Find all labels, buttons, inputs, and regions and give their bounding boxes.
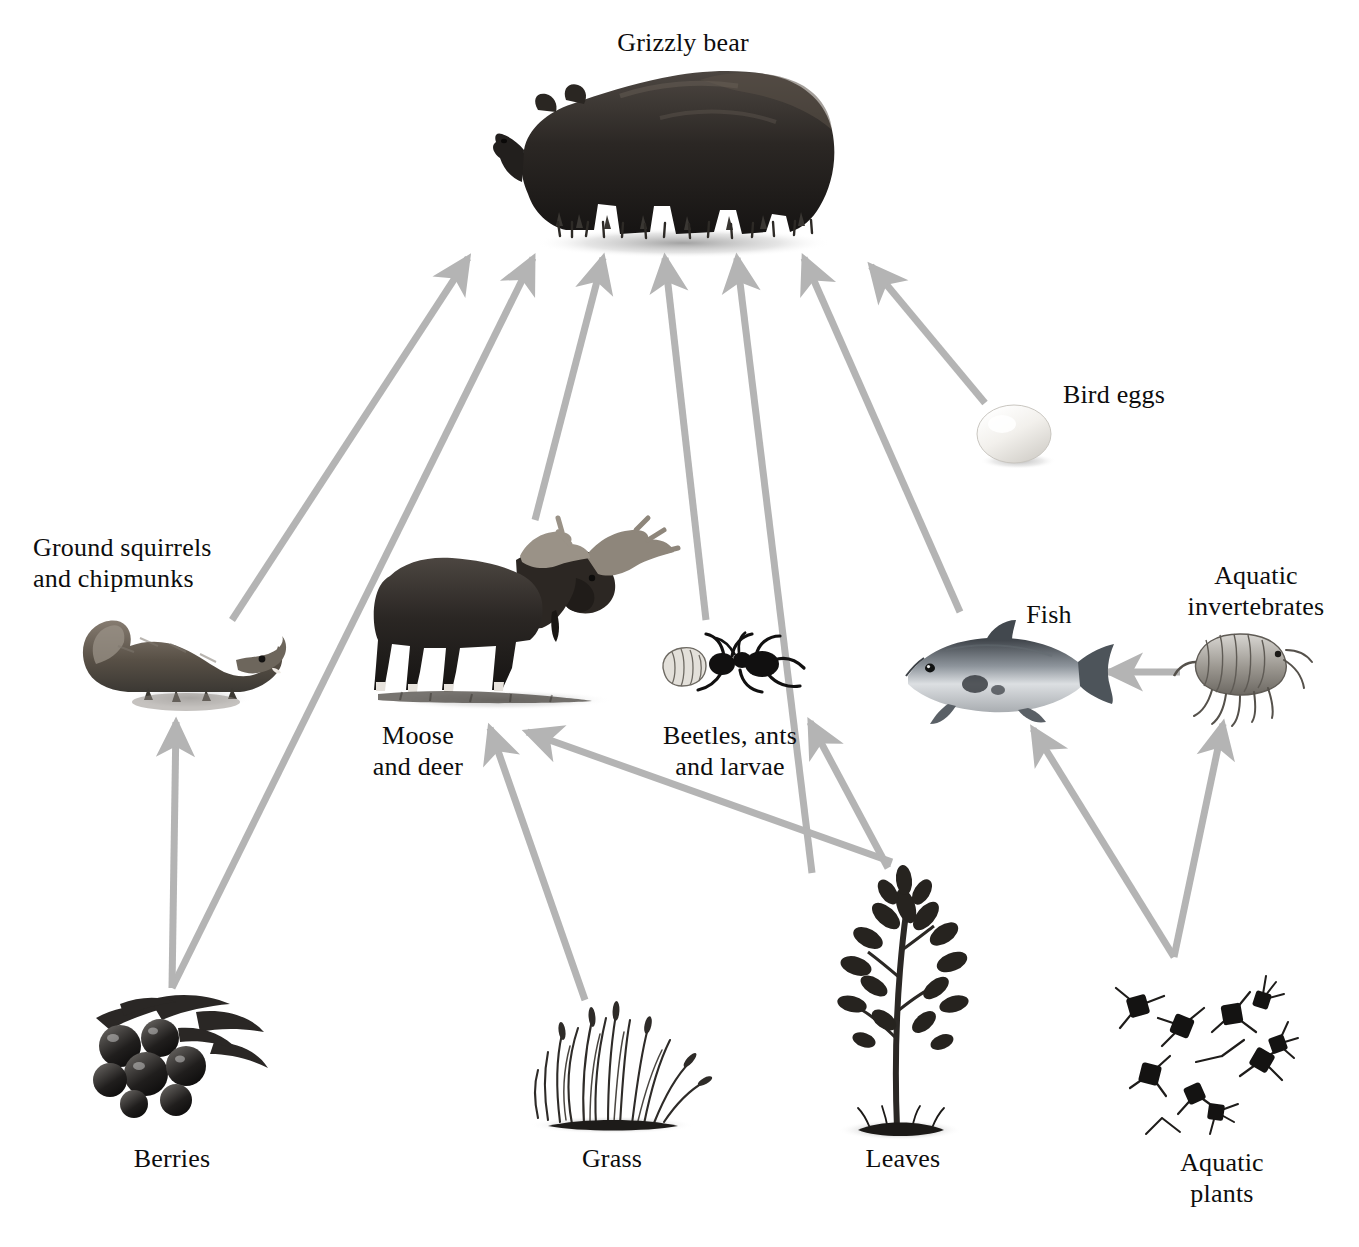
node-label-grizzly_bear: Grizzly bear [617, 28, 749, 59]
node-label-fish: Fish [1026, 600, 1072, 631]
grizzly-bear-illustration [493, 71, 834, 258]
node-label-berries: Berries [134, 1144, 210, 1175]
ground-squirrel-illustration [83, 620, 286, 711]
amphipod-illustration [1174, 634, 1312, 726]
aquatic-plant-diatoms-illustration [1116, 976, 1298, 1134]
food-web-diagram: Grizzly bearBird eggsGround squirrels an… [0, 0, 1359, 1247]
node-label-grass: Grass [582, 1144, 642, 1175]
beetle-ant-larva-illustration [663, 632, 804, 692]
node-label-ground_squirrels: Ground squirrels and chipmunks [33, 533, 212, 594]
node-label-bird_eggs: Bird eggs [1063, 380, 1165, 411]
larva-shape [663, 648, 706, 686]
berries-illustration [93, 995, 268, 1118]
illustration-layer [0, 0, 1359, 1247]
node-label-beetles_ants_larvae: Beetles, ants and larvae [663, 721, 797, 782]
node-label-aquatic_plants: Aquatic plants [1180, 1148, 1264, 1209]
bird-egg-illustration [977, 405, 1056, 469]
node-label-moose_and_deer: Moose and deer [373, 721, 463, 782]
leafy-tree-illustration [836, 864, 971, 1140]
moose-illustration [374, 518, 678, 710]
node-label-aquatic_inverts: Aquatic invertebrates [1188, 561, 1325, 622]
node-label-leaves: Leaves [866, 1144, 941, 1175]
grass-illustration [530, 1001, 714, 1134]
salmon-illustration [906, 620, 1114, 724]
